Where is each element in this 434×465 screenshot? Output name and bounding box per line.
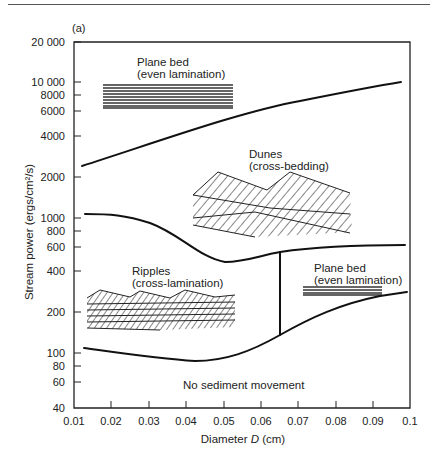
ripples-title: Ripples: [132, 265, 171, 277]
y-tick-label: 80: [53, 360, 65, 372]
x-tick-label: 0.01: [63, 415, 84, 427]
x-axis: 0.01 0.02 0.03 0.04 0.05 0.06 0.07 0.08 …: [63, 401, 417, 427]
x-tick-label: 0.02: [100, 415, 121, 427]
y-tick-label: 6000: [41, 105, 65, 117]
ripples-subtitle: (cross-lamination): [132, 277, 224, 289]
x-tick-label: 0.03: [138, 415, 159, 427]
y-tick-label: 60: [53, 376, 65, 388]
dunes-title: Dunes: [249, 148, 282, 160]
y-tick-label: 600: [47, 241, 65, 253]
x-axis-title: Diameter D (cm): [201, 433, 286, 445]
y-tick-label: 100: [47, 347, 65, 359]
y-tick-label: 10 000: [31, 76, 65, 88]
y-tick-label: 4000: [41, 130, 65, 142]
x-tick-label: 0.06: [250, 415, 271, 427]
y-tick-label: 20 000: [31, 36, 65, 48]
x-tick-label: 0.07: [287, 415, 308, 427]
plane-bed-upper-subtitle: (even lamination): [137, 68, 225, 80]
y-tick-label: 40: [53, 402, 65, 414]
y-tick-label: 8000: [41, 89, 65, 101]
x-tick-label: 0.08: [325, 415, 346, 427]
plane-bed-upper-lamination: [103, 85, 233, 108]
x-tick-label: 0.1: [402, 415, 417, 427]
y-axis-title: Stream power (ergs/cm²/s): [23, 164, 35, 300]
x-tick-label: 0.09: [362, 415, 383, 427]
y-tick-label: 1000: [41, 212, 65, 224]
no-movement-label: No sediment movement: [183, 379, 305, 391]
plane-bed-lower-title: Plane bed: [314, 262, 366, 274]
y-tick-label: 200: [47, 306, 65, 318]
ripples-cross-lamination: [87, 290, 235, 330]
x-tick-label: 0.04: [175, 415, 196, 427]
panel-label: (a): [72, 22, 85, 34]
dunes-subtitle: (cross-bedding): [249, 160, 329, 172]
plane-bed-lower-subtitle: (even lamination): [314, 274, 402, 286]
dunes-cross-bedding: [193, 172, 352, 237]
x-tick-label: 0.05: [213, 415, 234, 427]
y-tick-label: 800: [47, 225, 65, 237]
plane-bed-lower-lamination: [303, 287, 382, 295]
y-tick-label: 2000: [41, 171, 65, 183]
plane-bed-upper-title: Plane bed: [137, 56, 189, 68]
y-tick-label: 400: [47, 265, 65, 277]
chart-svg: (a) 20 000 10 000 8000 6000 4000 2000 10…: [0, 0, 434, 465]
